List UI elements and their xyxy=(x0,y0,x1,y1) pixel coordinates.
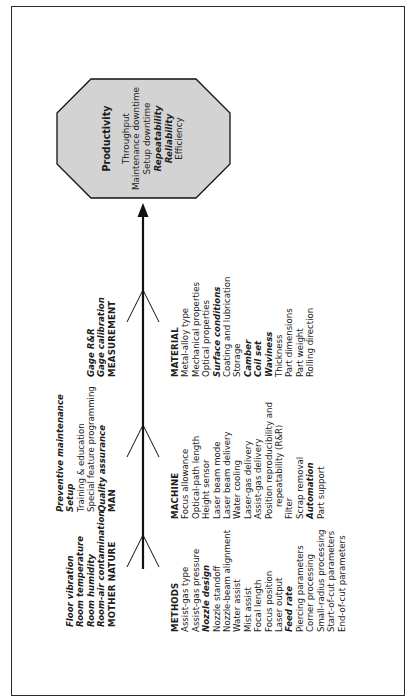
cause-item: Assist-gas pressure xyxy=(191,529,201,632)
cause-item: Focus position xyxy=(264,529,274,632)
cause-item: Training & education xyxy=(76,386,86,512)
cause-item: Water assist xyxy=(232,529,242,632)
effect-title: Productivity xyxy=(102,106,113,172)
cause-item: End-of-cut parameters xyxy=(337,529,347,632)
category-label: MATERIAL xyxy=(170,277,180,377)
cause-item: Scrap removal xyxy=(295,402,305,519)
category-label: METHODS xyxy=(170,529,180,632)
category-man: Preventive maintenance Setup Training & … xyxy=(55,386,117,512)
cause-item: Focus allowance xyxy=(180,402,190,519)
cause-item: Quality assurance xyxy=(97,386,107,512)
rib-measurement xyxy=(127,290,143,322)
cause-item: Start-of-cut parameters xyxy=(326,529,336,632)
cause-item: Small-radius processing xyxy=(316,529,326,632)
category-label: MACHINE xyxy=(170,402,180,519)
rib-methods xyxy=(143,535,159,567)
category-methods: METHODS Assist-gas type Assist-gas press… xyxy=(170,529,347,632)
cause-item: Coil set xyxy=(253,277,263,377)
cause-item: Gage calibration xyxy=(96,297,106,377)
cause-item: Preventive maintenance xyxy=(55,386,65,512)
cause-item: Mechanical properties xyxy=(191,277,201,377)
cause-item: Laser beam delivery xyxy=(222,402,232,519)
cause-item: Waviness xyxy=(264,277,274,377)
cause-item: Corner processing xyxy=(305,529,315,632)
rib-material xyxy=(143,290,159,322)
cause-item: Part weight xyxy=(295,277,305,377)
effect-item: Throughput xyxy=(121,113,132,164)
cause-item: Camber xyxy=(243,277,253,377)
effect-item: Repeatability xyxy=(153,106,164,172)
cause-item: Room temperature xyxy=(75,511,85,627)
cause-item: Storage xyxy=(232,277,242,377)
effect-box: Productivity Throughput Maintenance down… xyxy=(57,79,230,198)
effect-item: Efficiency xyxy=(174,117,185,159)
cause-item: Rolling direction xyxy=(305,277,315,377)
rib-man xyxy=(127,425,143,457)
category-mother-nature: Floor vibration Room temperature Room hu… xyxy=(65,511,117,627)
effect-item: Reliability xyxy=(164,114,175,164)
cause-item: Water cooling xyxy=(232,402,242,519)
cause-item: Assist-gas delivery xyxy=(253,402,263,519)
category-material: MATERIAL Metal-alloy type Mechanical pro… xyxy=(170,277,316,377)
cause-item: Room humidity xyxy=(86,511,96,627)
cause-item: Automation xyxy=(305,402,315,519)
cause-item: Nozzle-beam alignment xyxy=(222,529,232,632)
cause-item: Piercing parameters xyxy=(295,529,305,632)
cause-item: Nozzle design xyxy=(201,529,211,632)
category-measurement: Gage R&R Gage calibration MEASUREMENT xyxy=(86,297,117,377)
rib-mother-nature xyxy=(127,535,143,567)
category-label: MEASUREMENT xyxy=(107,297,117,377)
cause-item: Coating and lubrication xyxy=(222,277,232,377)
cause-item: Gage R&R xyxy=(86,297,96,377)
category-label: MAN xyxy=(107,386,117,512)
spine-arrowhead-icon xyxy=(138,203,149,217)
cause-item: Assist-gas type xyxy=(180,529,190,632)
cause-item: Room-air contamination xyxy=(96,511,106,627)
cause-item: Surface conditions xyxy=(212,277,222,377)
cause-item: Part dimensions xyxy=(284,277,294,377)
cause-item: Floor vibration xyxy=(65,511,75,627)
cause-item: Laser beam mode xyxy=(212,402,222,519)
cause-item: Setup xyxy=(65,386,75,512)
category-machine: MACHINE Focus allowance Optical-path len… xyxy=(170,402,326,519)
cause-item: Position reproducibility and xyxy=(264,402,274,519)
cause-item: Special feature programming xyxy=(86,386,96,512)
cause-item: Focal length xyxy=(253,529,263,632)
cause-item: Laser output xyxy=(274,529,284,632)
cause-item: Mist assist xyxy=(243,529,253,632)
category-label: MOTHER NATURE xyxy=(107,511,117,627)
cause-item: Part support xyxy=(316,402,326,519)
cause-item: Optical properties xyxy=(201,277,211,377)
cause-item: Thickness xyxy=(274,277,284,377)
rib-machine xyxy=(143,425,159,457)
cause-item: Metal-alloy type xyxy=(180,277,190,377)
cause-item: Filter xyxy=(284,402,294,519)
cause-item: Optical-path length xyxy=(191,402,201,519)
cause-item: repeatability (R&R) xyxy=(274,402,284,519)
effect-item: Maintenance downtime xyxy=(131,87,142,190)
cause-item: Laser-gas delivery xyxy=(243,402,253,519)
cause-item: Nozzle standoff xyxy=(212,529,222,632)
cause-item: Feed rate xyxy=(284,529,294,632)
effect-item: Setup downtime xyxy=(142,103,153,175)
cause-item: Height sensor xyxy=(201,402,211,519)
